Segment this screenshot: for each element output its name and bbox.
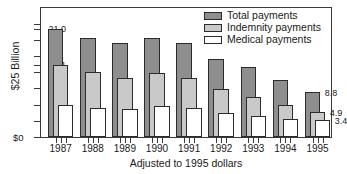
- legend-swatch-indemnity-icon: [204, 24, 222, 32]
- x-axis-label-1991: 1991: [173, 143, 205, 154]
- y-axis-tick: [34, 40, 40, 41]
- legend-swatch-medical-icon: [204, 36, 222, 44]
- bar-medical-1992: [218, 113, 234, 137]
- bar-medical-1988: [90, 108, 106, 137]
- x-axis-label-1993: 1993: [237, 143, 269, 154]
- x-axis-label-1989: 1989: [109, 143, 141, 154]
- legend-label: Indemnity payments: [227, 22, 321, 33]
- legend-label: Total payments: [227, 10, 298, 21]
- legend-item-total: Total payments: [204, 10, 321, 21]
- y-axis-tick: [34, 72, 40, 73]
- x-axis-caption: Adjusted to 1995 dollars: [40, 157, 332, 169]
- y-axis-tick: [34, 24, 40, 25]
- x-axis-label-1987: 1987: [45, 143, 77, 154]
- y-axis-title: $25 Billion: [8, 28, 22, 104]
- legend-item-indemnity: Indemnity payments: [204, 22, 321, 33]
- y-axis-tick: [34, 65, 40, 66]
- x-axis-label-1994: 1994: [269, 143, 301, 154]
- bar-medical-1995: [315, 120, 331, 138]
- y-axis-tick: [34, 56, 40, 57]
- y-axis-tick: [34, 121, 40, 122]
- bar-medical-1990: [154, 106, 170, 137]
- bar-medical-1987: [58, 105, 74, 138]
- x-axis-label-1995: 1995: [302, 143, 334, 154]
- legend: Total paymentsIndemnity paymentsMedical …: [204, 10, 321, 45]
- legend-label: Medical payments: [227, 34, 312, 45]
- bar-medical-1993: [251, 116, 267, 137]
- y-axis-tick: [34, 29, 40, 30]
- y-axis-tick: [34, 105, 40, 106]
- x-axis-label-1992: 1992: [205, 143, 237, 154]
- y-axis-zero-label: $0: [13, 133, 24, 143]
- x-axis-label-1990: 1990: [141, 143, 173, 154]
- y-axis-tick: [34, 88, 40, 89]
- end-label-medical: 3.4: [335, 117, 347, 126]
- legend-item-medical: Medical payments: [204, 34, 321, 45]
- x-axis-label-1988: 1988: [77, 143, 109, 154]
- bar-medical-1994: [283, 119, 299, 138]
- bar-medical-1991: [186, 108, 202, 137]
- bar-medical-1989: [122, 109, 138, 137]
- end-label-total: 8.8: [325, 89, 338, 98]
- legend-swatch-total-icon: [204, 12, 222, 20]
- y-axis-tick: [34, 137, 40, 138]
